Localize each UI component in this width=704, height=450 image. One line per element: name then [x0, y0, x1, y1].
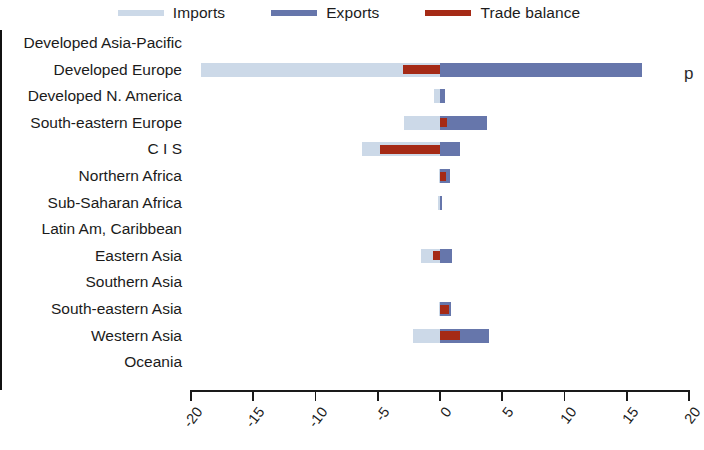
bar-trade-balance: [403, 65, 440, 74]
bar-trade-balance: [440, 172, 446, 181]
x-axis-tick-label: 10: [547, 404, 579, 439]
x-axis-tick-label: -20: [173, 404, 205, 439]
x-axis-tick: [626, 390, 628, 401]
chart-legend: Imports Exports Trade balance: [0, 0, 698, 26]
legend-label-imports: Imports: [173, 4, 225, 22]
bar-imports: [413, 329, 440, 343]
category-label: Northern Africa: [0, 168, 182, 184]
x-axis-tick-label: 15: [609, 404, 641, 439]
chart-plot-area: Developed Asia-PacificDeveloped EuropeDe…: [0, 30, 698, 390]
legend-swatch-trade-balance: [425, 10, 471, 16]
x-axis: -20-15-10-505101520: [0, 390, 698, 450]
bar-trade-balance: [440, 331, 460, 340]
bar-trade-balance: [440, 305, 449, 314]
legend-swatch-imports: [118, 10, 164, 16]
bar-exports: [440, 249, 452, 263]
legend-swatch-exports: [271, 10, 317, 16]
legend-label-trade-balance: Trade balance: [480, 4, 580, 22]
bar-exports: [440, 63, 642, 77]
x-axis-tick: [377, 390, 379, 401]
x-axis-tick: [688, 390, 690, 401]
x-axis-tick: [564, 390, 566, 401]
page-artifact-glyph: p: [684, 64, 693, 84]
bar-imports: [404, 116, 440, 130]
bar-trade-balance: [433, 251, 440, 260]
category-label: Southern Asia: [0, 274, 182, 290]
category-label: Eastern Asia: [0, 248, 182, 264]
category-label: South-eastern Europe: [0, 115, 182, 131]
x-axis-tick-label: 20: [671, 404, 703, 439]
bar-exports: [440, 142, 460, 156]
category-label: Developed N. America: [0, 88, 182, 104]
legend-label-exports: Exports: [326, 4, 379, 22]
category-label: Latin Am, Caribbean: [0, 221, 182, 237]
x-axis-tick: [315, 390, 317, 401]
category-label: Oceania: [0, 354, 182, 370]
bar-trade-balance: [440, 118, 447, 127]
legend-item-trade-balance: Trade balance: [425, 4, 580, 22]
bar-exports: [440, 89, 445, 103]
category-label: C I S: [0, 141, 182, 157]
bar-exports: [440, 196, 442, 210]
category-label: South-eastern Asia: [0, 301, 182, 317]
bar-trade-balance: [380, 145, 440, 154]
category-label: Sub-Saharan Africa: [0, 195, 182, 211]
legend-item-imports: Imports: [118, 4, 225, 22]
x-axis-tick: [501, 390, 503, 401]
legend-item-exports: Exports: [271, 4, 379, 22]
category-label: Developed Europe: [0, 62, 182, 78]
category-label: Western Asia: [0, 328, 182, 344]
x-axis-tick: [190, 390, 192, 401]
x-axis-tick-label: -10: [298, 404, 330, 439]
category-label: Developed Asia-Pacific: [0, 35, 182, 51]
x-axis-tick-label: -15: [236, 404, 268, 439]
x-axis-tick-label: 0: [422, 404, 454, 439]
x-axis-tick-label: 5: [485, 404, 517, 439]
x-axis-tick: [252, 390, 254, 401]
x-axis-tick: [439, 390, 441, 401]
x-axis-tick-label: -5: [360, 404, 392, 439]
